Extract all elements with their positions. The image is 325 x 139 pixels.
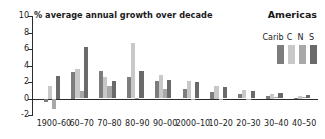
bar (139, 71, 143, 99)
bar (131, 43, 135, 98)
bar (219, 99, 223, 100)
y-tick-4: 4 (32, 66, 33, 67)
y-tick-label: 0 (24, 94, 29, 103)
y-tick-2: 2 (32, 82, 33, 83)
bar (167, 80, 171, 98)
bar-group (210, 16, 227, 115)
y-tick-8: 8 (32, 33, 33, 34)
growth-bar-chart: % average annual growth over decade Amer… (0, 0, 325, 139)
y-tick-label: 2 (24, 77, 29, 86)
bar-group (44, 16, 61, 115)
bar-group (127, 16, 144, 115)
y-tick--2: -2 (32, 115, 33, 116)
y-tick-0: 0 (32, 99, 33, 100)
x-axis-labels: 1900–6060–7070–8080–9090–002000–1010–202… (32, 119, 318, 133)
y-tick-label: 10 (19, 11, 29, 20)
bar (52, 99, 56, 110)
plot-area: 1086420-2 (32, 16, 318, 115)
bar-group (99, 16, 116, 115)
bar (223, 87, 227, 99)
bar (214, 86, 218, 98)
bar (56, 76, 60, 99)
y-tick-label: -2 (21, 110, 29, 119)
bar-group (183, 16, 200, 115)
bar (191, 99, 195, 101)
x-axis-label: 40–50 (284, 119, 324, 129)
bar-group (266, 16, 283, 115)
bar (242, 90, 246, 99)
y-tick-label: 6 (24, 44, 29, 53)
bar (187, 81, 191, 99)
bar (44, 99, 48, 103)
bar-group (294, 16, 311, 115)
bar (195, 82, 199, 98)
bar (246, 99, 250, 100)
bar (251, 91, 255, 99)
y-tick-label: 4 (24, 61, 29, 70)
bar-group (71, 16, 88, 115)
y-tick-6: 6 (32, 49, 33, 50)
bar-group (238, 16, 255, 115)
y-tick-label: 8 (24, 28, 29, 37)
bar (84, 47, 88, 99)
bar (48, 86, 52, 98)
bar (306, 95, 310, 98)
bar-group (155, 16, 172, 115)
bar (112, 81, 116, 98)
y-tick-10: 10 (32, 16, 33, 17)
bar (278, 93, 282, 99)
